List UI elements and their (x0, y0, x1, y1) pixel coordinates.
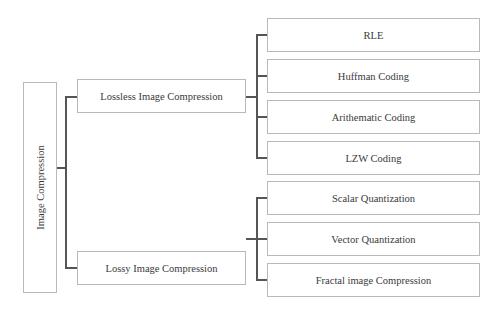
node-label: Scalar Quantization (332, 193, 415, 204)
connector-to-lzw (256, 157, 267, 159)
node-fractal-image-compression: Fractal image Compression (267, 263, 480, 297)
node-huffman-coding: Huffman Coding (267, 59, 480, 93)
connector-to-huffman (256, 75, 267, 77)
node-label: LZW Coding (345, 153, 401, 164)
connector-lossless-trunk (256, 34, 258, 159)
connector-to-vector (256, 238, 267, 240)
node-label: Vector Quantization (331, 234, 415, 245)
connector-root-trunk (65, 96, 67, 269)
node-label: Huffman Coding (338, 71, 409, 82)
connector-to-rle (256, 34, 267, 36)
connector-to-scalar (256, 197, 267, 199)
node-label: Arithematic Coding (332, 112, 416, 123)
node-rle: RLE (267, 18, 480, 52)
node-label: Lossless Image Compression (100, 91, 223, 102)
node-lzw-coding: LZW Coding (267, 141, 480, 175)
connector-to-arithmetic (256, 116, 267, 118)
node-lossy-image-compression: Lossy Image Compression (77, 251, 246, 285)
node-lossless-image-compression: Lossless Image Compression (77, 79, 246, 113)
node-arithematic-coding: Arithematic Coding (267, 100, 480, 134)
node-vector-quantization: Vector Quantization (267, 222, 480, 256)
node-scalar-quantization: Scalar Quantization (267, 181, 480, 215)
connector-to-fractal (256, 279, 267, 281)
connector-to-lossy (65, 267, 77, 269)
node-label: Image Compression (35, 145, 46, 229)
node-label: Lossy Image Compression (106, 263, 218, 274)
connector-to-lossless (65, 96, 77, 98)
node-image-compression: Image Compression (23, 82, 57, 293)
node-label: Fractal image Compression (316, 275, 431, 286)
node-label: RLE (364, 30, 384, 41)
